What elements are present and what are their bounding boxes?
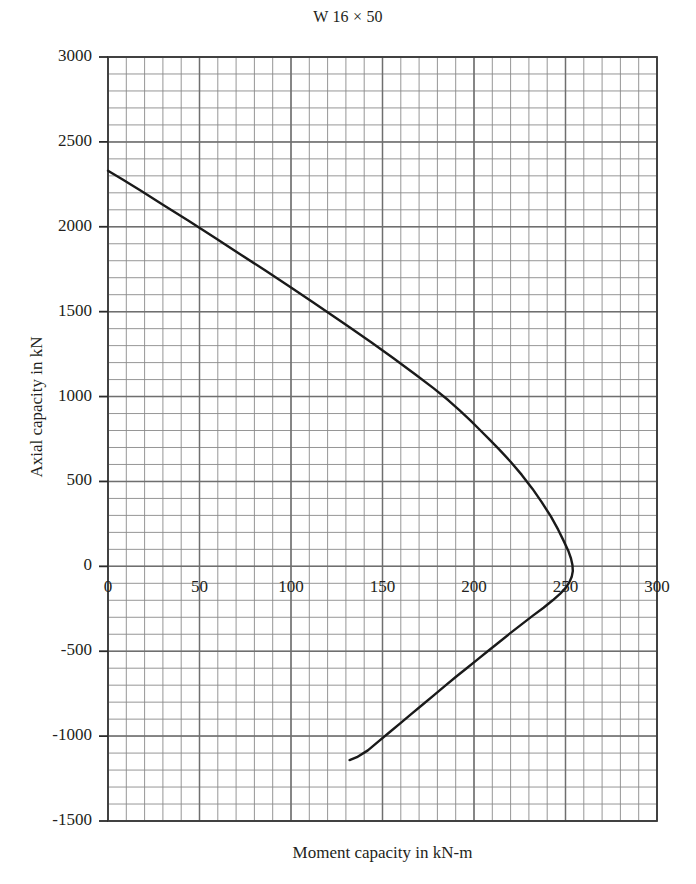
y-tick-label: 0: [4, 555, 92, 575]
x-axis-title: Moment capacity in kN-m: [108, 843, 657, 863]
y-tick-label: 500: [4, 470, 92, 490]
x-tick-label: 50: [170, 577, 230, 597]
data-series-group: [108, 171, 573, 760]
y-tick-label: -1500: [4, 810, 92, 830]
y-axis-title: Axial capacity in kN: [27, 297, 47, 517]
x-tick-label: 200: [444, 577, 504, 597]
major-gridlines: [108, 57, 657, 821]
x-tick-label: 250: [536, 577, 596, 597]
x-tick-label: 100: [261, 577, 321, 597]
x-tick-label: 0: [78, 577, 138, 597]
y-tick-label: 1500: [4, 301, 92, 321]
y-tick-label: 2000: [4, 216, 92, 236]
x-tick-label: 300: [627, 577, 687, 597]
y-tick-label: 3000: [4, 46, 92, 66]
y-tick-label: -1000: [4, 725, 92, 745]
axis-tick-marks: [99, 57, 108, 821]
y-tick-label: 2500: [4, 131, 92, 151]
x-tick-label: 150: [353, 577, 413, 597]
y-tick-label: -500: [4, 640, 92, 660]
y-tick-label: 1000: [4, 386, 92, 406]
chart-plot-area: [0, 0, 696, 884]
chart-figure: W 16 × 50 -1500-1000-5000500100015002000…: [0, 0, 696, 884]
